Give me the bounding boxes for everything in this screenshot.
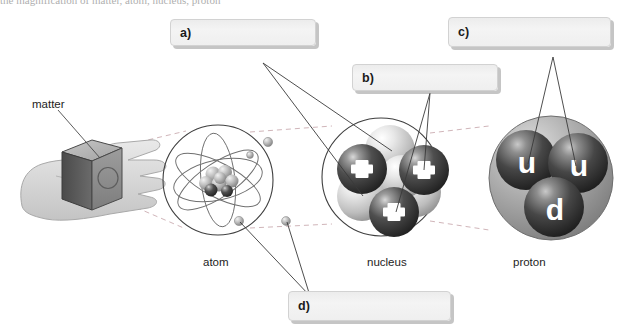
caption-matter: matter [32,98,65,110]
nucleus-illustration [322,118,449,237]
quark-label-d: d [546,193,564,226]
caption-proton: proton [513,256,546,268]
answer-blank-c[interactable]: c) [448,17,611,47]
matter-structure-illustration: u u d [0,0,627,331]
quark-label-u2: u [570,149,588,182]
blank-label-b: b) [362,70,374,84]
atom-illustration [163,125,290,235]
atom-nucleus-cluster [199,165,239,197]
quark-label-u1: u [518,146,536,179]
caption-nucleus: nucleus [367,256,407,268]
hand-with-cube [21,110,166,220]
answer-blank-a[interactable]: a) [170,19,316,46]
proton-illustration: u u d [489,116,613,240]
answer-blank-b[interactable]: b) [352,64,498,91]
blank-label-c: c) [458,25,469,39]
caption-atom: atom [203,256,229,268]
matter-cube [62,140,122,210]
blank-label-d: d) [298,299,310,313]
blank-label-a: a) [180,25,191,39]
diagram-canvas: the magnification of matter, atom, nucle… [0,0,627,331]
answer-blank-d[interactable]: d) [288,291,451,321]
